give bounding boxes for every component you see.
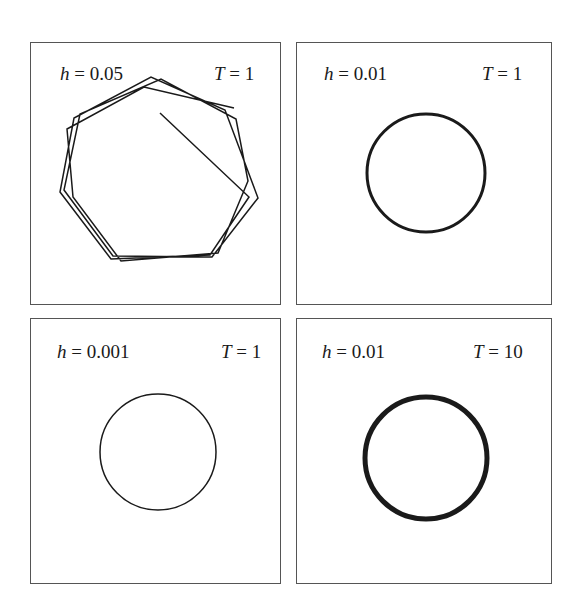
panel-h001-T1: h = 0.01 T = 1 (296, 42, 552, 305)
panel-h005-T1: h = 0.05 T = 1 (30, 42, 281, 305)
trajectory-circle (367, 114, 485, 232)
trajectory-circle (365, 397, 487, 519)
panel-h001-T10: h = 0.01 T = 10 (296, 318, 552, 584)
trajectory-polyline (60, 77, 258, 261)
panel-h0001-T1: h = 0.001 T = 1 (30, 318, 281, 584)
trajectory-plot (31, 43, 282, 306)
trajectory-plot (31, 319, 282, 585)
trajectory-circle (100, 394, 216, 510)
trajectory-plot (297, 319, 553, 585)
trajectory-plot (297, 43, 553, 306)
